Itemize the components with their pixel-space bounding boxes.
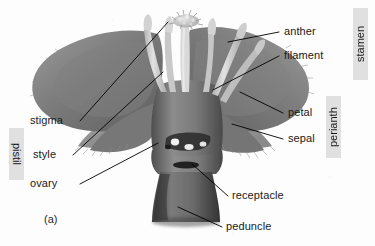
label-style: style <box>33 149 56 160</box>
group-label-pistil: pistil <box>9 128 24 180</box>
ovule <box>184 144 193 150</box>
style-shape <box>180 26 189 92</box>
label-stigma: stigma <box>30 115 63 126</box>
figure-caption: (a) <box>44 213 57 225</box>
group-label-perianth: perianth <box>326 96 341 158</box>
label-receptacle: receptacle <box>232 190 284 201</box>
label-peduncle: peduncle <box>226 221 271 232</box>
label-petal: petal <box>288 107 312 118</box>
group-label-stamen: stamen <box>353 8 368 80</box>
label-anther: anther <box>284 26 316 37</box>
stigma-shape <box>169 10 203 29</box>
flower-structure-figure: anther filament petal sepal stigma style… <box>0 0 375 246</box>
anther-shape <box>144 14 152 30</box>
ovule <box>171 139 179 146</box>
receptacle-marking <box>173 162 199 169</box>
label-sepal: sepal <box>288 133 315 144</box>
ovule <box>200 141 207 146</box>
label-filament: filament <box>284 50 323 61</box>
label-ovary: ovary <box>30 178 57 189</box>
